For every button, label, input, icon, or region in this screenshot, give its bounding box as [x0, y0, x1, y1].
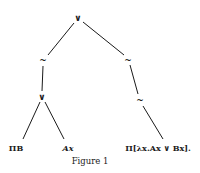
edge-rightneg1-rightneg2	[130, 65, 138, 94]
edge-root-right	[83, 22, 124, 55]
left-negation-node: ~	[39, 55, 47, 65]
leaf-pi-b: ΠB	[9, 143, 23, 153]
root-or-node: ∨	[74, 13, 81, 23]
figure-caption: Figure 1	[72, 156, 109, 166]
edge-rightneg2-pilambda	[143, 106, 163, 139]
leaf-ax: Ax	[63, 143, 74, 153]
left-or-node: ∨	[38, 92, 45, 102]
edge-root-left	[48, 23, 74, 55]
edge-leftneg-leftor	[42, 66, 43, 91]
right-negation-node-2: ~	[136, 95, 144, 105]
edge-leftor-pib	[23, 102, 40, 139]
right-negation-node: ~	[124, 55, 132, 65]
edge-leftor-ax	[45, 102, 64, 139]
leaf-pi-lambda: Π[λx.Ax ∨ Bx].	[125, 143, 191, 153]
